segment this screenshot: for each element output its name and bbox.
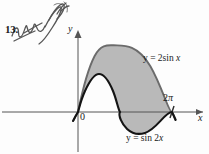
curve-label-lower-var: x <box>159 133 163 143</box>
curve-label-2sinx: y = 2sin x <box>143 54 180 64</box>
curve-label-sin2x: y = sin 2x <box>126 134 163 144</box>
curve-label-lower-text: y = sin 2 <box>126 133 159 143</box>
figure-container: 13. y x 0 2π y = 2sin x y = sin 2x <box>0 0 209 154</box>
problem-number: 13. <box>5 24 18 35</box>
origin-label: 0 <box>80 112 85 122</box>
pi-symbol: π <box>168 92 173 103</box>
x-tick-label-2pi: 2π <box>163 93 173 103</box>
y-axis-label: y <box>68 24 72 34</box>
plot-svg <box>0 0 209 154</box>
y-axis-arrow-icon <box>75 30 82 38</box>
x-axis-label: x <box>198 113 202 123</box>
curve-label-upper-var: x <box>176 53 180 63</box>
curve-label-upper-text: y = 2sin <box>143 53 176 63</box>
